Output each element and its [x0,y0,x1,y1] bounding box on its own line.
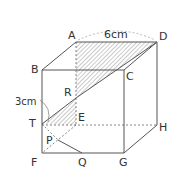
edge-AB [42,42,76,70]
line-PQ [58,140,82,153]
cube-diagram: 6cm 3cm A D B C R T E H P F Q G [0,0,179,176]
vertex-H: H [159,121,167,134]
vertex-E: E [78,111,85,124]
point-P: P [46,134,53,147]
vertex-C: C [126,70,134,83]
point-R: R [64,86,72,99]
vertex-B: B [31,63,39,76]
vertex-A: A [68,29,76,42]
edge-GH [124,125,157,153]
label-6cm: 6cm [104,28,128,41]
point-T: T [28,117,36,130]
vertex-F: F [31,156,37,169]
label-3cm: 3cm [15,96,37,107]
dimension-arc-3cm [40,100,49,122]
vertex-D: D [159,30,167,43]
vertex-G: G [119,156,128,169]
point-Q: Q [78,156,87,169]
